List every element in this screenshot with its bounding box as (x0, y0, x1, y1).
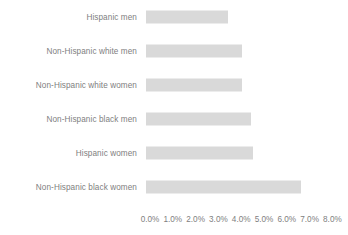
x-axis-tick-label: 2.0% (186, 213, 205, 227)
bar (146, 181, 301, 194)
bar-track (137, 34, 348, 68)
x-axis-tick-label: 0.0% (141, 213, 160, 227)
x-axis-tick-labels: 0.0%1.0%2.0%3.0%4.0%5.0%6.0%7.0%8.0% (140, 213, 348, 229)
bar-track (137, 102, 348, 136)
category-label: Non-Hispanic white women (0, 80, 137, 91)
chart-row: Non-Hispanic white women (0, 68, 348, 102)
x-axis-tick-label: 8.0% (323, 213, 342, 227)
category-label: Non-Hispanic white men (0, 46, 137, 57)
x-axis-tick-label: 4.0% (232, 213, 251, 227)
bar-track (137, 68, 348, 102)
chart-row: Non-Hispanic black women (0, 170, 348, 204)
category-label: Non-Hispanic black men (0, 114, 137, 125)
bar (146, 147, 253, 160)
bar-track (137, 0, 348, 34)
bar (146, 45, 242, 58)
chart-row: Hispanic women (0, 136, 348, 170)
chart-row: Hispanic men (0, 0, 348, 34)
bar-track (137, 136, 348, 170)
x-axis-tick-label: 6.0% (277, 213, 296, 227)
category-label: Hispanic women (0, 148, 137, 159)
x-axis: 0.0%1.0%2.0%3.0%4.0%5.0%6.0%7.0%8.0% (0, 213, 348, 229)
chart-plot-area: Hispanic men Non-Hispanic white men Non-… (0, 0, 348, 202)
x-axis-tick-label: 5.0% (255, 213, 274, 227)
category-label: Non-Hispanic black women (0, 182, 137, 193)
x-axis-tick-label: 7.0% (300, 213, 319, 227)
x-axis-tick-label: 1.0% (163, 213, 182, 227)
bar (146, 113, 251, 126)
category-label: Hispanic men (0, 12, 137, 23)
bar (146, 11, 228, 24)
bar-track (137, 170, 348, 204)
chart-row: Non-Hispanic white men (0, 34, 348, 68)
chart-row: Non-Hispanic black men (0, 102, 348, 136)
bar (146, 79, 242, 92)
x-axis-tick-label: 3.0% (209, 213, 228, 227)
bar-chart: Hispanic men Non-Hispanic white men Non-… (0, 0, 348, 235)
